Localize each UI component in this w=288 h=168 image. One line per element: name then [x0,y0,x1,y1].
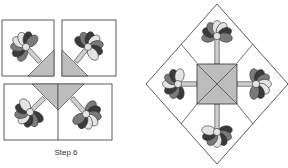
flower-center [26,108,33,115]
step6-blocks [2,20,116,140]
flower-center [213,32,220,39]
flower-center [213,128,220,135]
flower-center [22,43,29,50]
flower-center [174,80,181,87]
diagram-canvas [0,0,288,168]
flower-center [84,43,91,50]
step-caption: Step 6 [46,148,86,157]
flower-center [252,80,259,87]
flower-stem [215,36,219,64]
flower-center [82,110,89,117]
assembled-block [146,4,288,164]
flower-stem [215,104,219,132]
